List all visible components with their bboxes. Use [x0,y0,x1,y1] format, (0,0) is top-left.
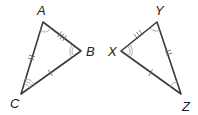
angle-a-arc [41,28,52,32]
vertex-label-x: X [107,44,118,59]
triangle-abc [21,22,81,94]
triangle-xyz [121,22,181,94]
vertex-label-b: B [86,44,95,59]
triangle-xyz-outline [121,22,181,94]
vertex-label-z: Z [181,99,191,114]
vertex-label-c: C [10,96,20,111]
vertex-label-y: Y [155,3,165,18]
congruent-triangles-diagram: A B C X Y Z [0,0,198,115]
vertex-label-a: A [36,3,46,18]
angle-y-arc [150,28,160,31]
angle-x-arcs [128,45,132,58]
angle-b-arcs [70,45,74,58]
